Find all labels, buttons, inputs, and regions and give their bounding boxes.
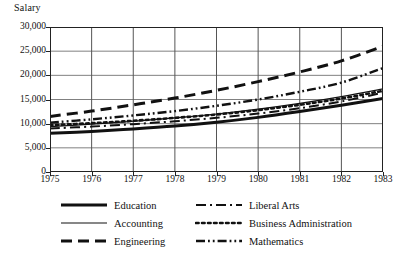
legend-line-sample: [60, 216, 108, 230]
x-tick-mark: [50, 172, 51, 176]
x-tick-label: 1979: [197, 175, 237, 185]
legend-swatch-icon: [60, 198, 108, 212]
legend-swatch-icon: [195, 234, 243, 248]
legend-swatch-icon: [195, 198, 243, 212]
legend-line-sample: [60, 234, 108, 248]
legend-line-sample: [195, 216, 243, 230]
legend-item-label: Business Administration: [249, 218, 352, 229]
legend-item[interactable]: Education: [60, 196, 165, 214]
x-tick-mark: [175, 172, 176, 176]
legend-item[interactable]: Mathematics: [195, 232, 352, 250]
x-tick-mark: [341, 172, 342, 176]
legend-item-label: Accounting: [114, 218, 163, 229]
x-tick-label: 1982: [321, 175, 361, 185]
x-tick-label: 1976: [72, 175, 112, 185]
legend-line-sample: [60, 198, 108, 212]
x-tick-label: 1983: [363, 175, 397, 185]
legend-item[interactable]: Engineering: [60, 232, 165, 250]
y-tick-label: 5,000: [0, 143, 51, 153]
y-tick-label: 30,000: [0, 22, 51, 32]
x-tick-mark: [133, 172, 134, 176]
legend-column-right: Liberal ArtsBusiness AdministrationMathe…: [195, 196, 352, 250]
chart-legend: EducationAccountingEngineering Liberal A…: [0, 196, 392, 252]
x-tick-mark: [300, 172, 301, 176]
x-tick-mark: [217, 172, 218, 176]
y-tick-label: 25,000: [0, 46, 51, 56]
x-tick-mark: [258, 172, 259, 176]
y-tick-label: 10,000: [0, 119, 51, 129]
y-tick-label: 15,000: [0, 95, 51, 105]
x-tick-label: 1977: [113, 175, 153, 185]
legend-item-label: Mathematics: [249, 236, 303, 247]
y-axis-title: Salary: [14, 2, 41, 13]
legend-line-sample: [195, 198, 243, 212]
x-tick-label: 1981: [280, 175, 320, 185]
legend-item[interactable]: Business Administration: [195, 214, 352, 232]
legend-item-label: Liberal Arts: [249, 200, 299, 211]
legend-swatch-icon: [195, 216, 243, 230]
legend-column-left: EducationAccountingEngineering: [60, 196, 165, 250]
x-tick-mark: [383, 172, 384, 176]
legend-item[interactable]: Liberal Arts: [195, 196, 352, 214]
x-tick-mark: [92, 172, 93, 176]
legend-item-label: Engineering: [114, 236, 165, 247]
x-tick-label: 1975: [30, 175, 70, 185]
legend-swatch-icon: [60, 216, 108, 230]
plot-area: [50, 27, 383, 172]
legend-line-sample: [195, 234, 243, 248]
legend-item-label: Education: [114, 200, 157, 211]
y-tick-label: 20,000: [0, 70, 51, 80]
x-tick-label: 1980: [238, 175, 278, 185]
x-tick-label: 1978: [155, 175, 195, 185]
line-chart-svg: [50, 27, 383, 172]
legend-swatch-icon: [60, 234, 108, 248]
legend-item[interactable]: Accounting: [60, 214, 165, 232]
